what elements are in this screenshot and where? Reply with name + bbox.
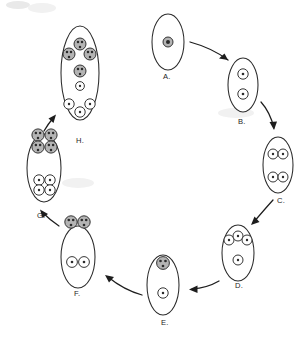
cell-membrane [228,58,258,112]
arrow-head-icon [105,275,114,283]
nucleolus-dot [272,153,274,155]
arrow-head-icon [270,122,278,131]
nucleolus-dot [159,260,162,263]
nucleolus-dot [81,219,84,222]
nucleolus-dot [39,144,42,147]
nucleus-open [76,82,85,91]
nucleolus-dot [164,260,167,263]
nucleolus-dot [48,144,51,147]
nucleus-open [278,149,288,159]
nucleolus-dot [77,68,80,71]
nucleolus-dot [79,46,82,49]
nucleus-shaded [32,129,44,141]
cell-stage-f [61,216,95,288]
cell-stage-g [27,129,61,202]
nucleolus-dot [35,132,38,135]
cell-membrane [263,137,293,193]
stage-label-e: E. [161,318,169,327]
nucleus-open [79,257,90,268]
nucleus-open [224,235,234,245]
nucleolus-dot [66,51,69,54]
arrow-e-to-f [105,275,142,295]
cell-membrane [61,226,95,288]
nucleolus-dot [81,68,84,71]
nucleolus-dot [72,219,75,222]
nucleolus-dot [81,41,84,44]
nucleolus-dot [246,239,248,241]
arrow-d-to-e [189,281,219,293]
cell-stage-b [228,58,258,112]
nucleolus-dot [79,85,81,87]
nucleus-shaded [163,37,173,47]
nucleus-outline [65,216,77,228]
nucleus-open [242,235,252,245]
nucleus-open [158,288,168,298]
nucleus-open [238,69,248,79]
stage-label-b: B. [238,117,246,126]
nucleolus-dot [38,179,40,181]
nucleus-open [34,175,44,185]
nucleolus-dot [52,132,55,135]
cell-stage-e [147,255,179,315]
nucleus-shaded [32,141,44,153]
nucleolus-dot [87,51,90,54]
cell-layer [27,14,293,315]
nucleolus-dot [52,144,55,147]
nucleolus-dot [37,137,40,140]
nucleolus-dot [39,132,42,135]
nucleus-shaded [78,216,90,228]
nucleolus-dot [68,103,70,105]
nucleolus-dot [228,239,230,241]
nucleolus-dot [85,219,88,222]
nucleus-outline [32,141,44,153]
nucleolus-dot [38,189,40,191]
nucleolus-dot [71,261,74,264]
nucleolus-dot [166,40,170,44]
cell-stage-d [222,225,254,281]
nucleus-open [268,172,278,182]
nucleolus-dot [89,103,91,105]
cell-stage-a [152,14,184,70]
nucleus-shaded [63,48,75,60]
nucleolus-dot [35,144,38,147]
nucleus-outline [45,129,57,141]
nucleolus-dot [49,179,51,181]
nucleolus-dot [242,73,245,76]
arrow-b-to-c [261,102,277,130]
nucleolus-dot [68,56,71,59]
nucleus-shaded [45,129,57,141]
nucleolus-dot [83,224,86,227]
nucleolus-dot [77,41,80,44]
nucleus-open [233,231,243,241]
nucleus-open [34,185,44,195]
nucleus-open [64,99,74,109]
arrow-head-icon [189,286,198,294]
cell-stage-c [263,137,293,193]
nucleolus-dot [162,265,165,268]
nucleolus-dot [48,132,51,135]
nucleus-open [278,172,288,182]
nucleolus-dot [50,137,53,140]
nucleolus-dot [70,224,73,227]
life-cycle-diagram: A.B.C.D.E.F.G.H. [0,0,308,349]
nucleus-shaded [74,65,86,77]
stage-label-c: C. [277,196,285,205]
nucleus-open [238,89,248,99]
nucleolus-dot [79,73,82,76]
nucleus-open [75,107,85,117]
nucleolus-dot [83,261,86,264]
nucleolus-dot [242,93,245,96]
nucleolus-dot [237,235,239,237]
nucleus-outline [157,257,170,270]
nucleolus-dot [282,153,284,155]
nucleus-open [45,185,55,195]
nucleus-open [268,149,278,159]
stage-label-d: D. [235,281,243,290]
nucleus-shaded [45,141,57,153]
nucleolus-dot [50,149,53,152]
nucleus-open [233,255,243,265]
nucleolus-dot [162,292,165,295]
nucleus-open [85,99,95,109]
nucleus-shaded [65,216,77,228]
nucleus-open [45,175,55,185]
